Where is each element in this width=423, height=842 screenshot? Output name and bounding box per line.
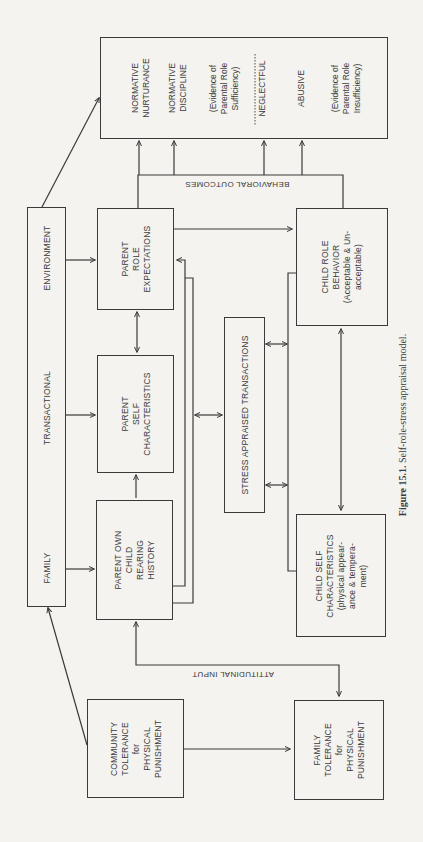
box-text: PARENT [119, 372, 130, 455]
outcome-sufficiency-note: (Evidence ofParental RoleSufficiency) [205, 38, 245, 138]
community-tolerance-box: COMMUNITYTOLERANCEforPHYSICALPUNISHMENT [87, 699, 184, 798]
box-text: CHILD SELF [314, 534, 325, 617]
child-role-behavior-box: CHILD ROLEBEHAVIOR(Acceptable & Un-accep… [296, 208, 388, 326]
behavioral-outcomes-label: BEHAVIORAL OUTCOMES [185, 180, 289, 189]
parent-role-expectations-box: PARENTROLEEXPECTATIONS [97, 208, 174, 310]
box-text: CHILD [124, 531, 135, 590]
box-text: CHARACTERISTICS [325, 534, 336, 617]
box-text: TOLERANCE [119, 719, 130, 777]
box-text: CHILD ROLE [320, 231, 331, 303]
outcome-text: ABUSIVE [296, 70, 306, 107]
caption-text: Self-role-stress appraisal model. [397, 334, 408, 466]
box-text: PARENT [119, 226, 130, 293]
family-tolerance-box: FAMILYTOLERANCEforPHYSICALPUNISHMENT [294, 700, 384, 800]
outcome-neglectful: NEGLECTFUL [252, 38, 272, 138]
box-text: CHARACTERISTICS [141, 372, 152, 455]
box-text: for [334, 721, 345, 779]
box-text: ance & tempera- [347, 534, 358, 617]
outcome-abusive: ABUSIVE [291, 38, 311, 138]
environment-label: ENVIRONMENT [41, 225, 52, 290]
outcome-text: Parental Role [342, 62, 352, 114]
parent-own-history-box: PARENT OWNCHILDREARINGHISTORY [96, 500, 173, 620]
box-text: PUNISHMENT [356, 721, 367, 779]
box-text: STRESS APPRAISED TRANSACTIONS [239, 335, 250, 494]
box-text: PARENT OWN [113, 531, 124, 590]
figure-caption: Figure 15.1. Self-role-stress appraisal … [397, 334, 408, 516]
outcome-text: Sufficiency) [231, 66, 241, 110]
box-text: PUNISHMENT [152, 719, 163, 777]
box-text: REARING [135, 531, 146, 590]
family-transactional-environment-box: ENVIRONMENT TRANSACTIONAL FAMILY [27, 207, 66, 607]
box-text: BEHAVIOR [331, 231, 342, 303]
transactional-label: TRANSACTIONAL [41, 371, 52, 445]
outcome-normative-nurturance: NORMATIVENURTURANCE [126, 38, 156, 138]
attitudinal-input-label: ATTITUDINAL INPUT [192, 670, 274, 679]
outcome-text: Insufficiency) [353, 63, 363, 112]
box-text: ment) [358, 534, 369, 617]
box-text: acceptable) [353, 231, 364, 303]
box-text: FAMILY [312, 721, 323, 779]
outcome-insufficiency-note: (Evidence ofParental RoleInsufficiency) [327, 38, 367, 138]
box-text: HISTORY [146, 531, 157, 590]
box-text: PHYSICAL [141, 719, 152, 777]
caption-label: Figure 15.1. [397, 465, 408, 516]
box-text: (physical appear- [336, 534, 347, 617]
outcome-text: NURTURANCE [141, 58, 151, 117]
child-self-characteristics-box: CHILD SELFCHARACTERISTICS(physical appea… [296, 514, 386, 637]
outcome-text: DISCIPLINE [178, 64, 188, 111]
outcome-text: (Evidence of [209, 64, 219, 111]
outcome-normative-discipline: NORMATIVEDISCIPLINE [163, 38, 193, 138]
family-label: FAMILY [41, 553, 52, 584]
outcome-text: (Evidence of [331, 64, 341, 111]
outcome-text: NORMATIVE [167, 63, 177, 113]
outcomes-box: NORMATIVENURTURANCE NORMATIVEDISCIPLINE … [100, 37, 388, 139]
box-text: for [130, 719, 141, 777]
outcome-text: NORMATIVE [130, 63, 140, 113]
outcome-text: Parental Role [220, 62, 230, 114]
box-text: (Acceptable & Un- [342, 231, 353, 303]
stress-appraised-transactions-box: STRESS APPRAISED TRANSACTIONS [224, 317, 265, 513]
box-text: ROLE [130, 226, 141, 293]
parent-self-characteristics-box: PARENTSELFCHARACTERISTICS [97, 355, 174, 473]
outcome-text: NEGLECTFUL [257, 60, 267, 116]
box-text: EXPECTATIONS [141, 226, 152, 293]
box-text: PHYSICAL [345, 721, 356, 779]
box-text: TOLERANCE [323, 721, 334, 779]
box-text: COMMUNITY [108, 719, 119, 777]
box-text: SELF [130, 372, 141, 455]
